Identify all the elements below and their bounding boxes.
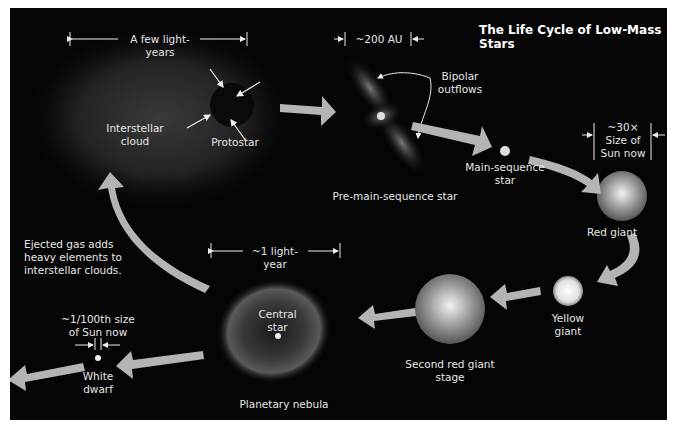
stage-label-red-giant: Red giant (582, 226, 642, 239)
ejected-gas-note: Ejected gas adds heavy elements to inter… (24, 238, 134, 277)
cloud-scale-label: A few light-years (120, 33, 200, 59)
diagram-title: The Life Cycle of Low-Mass Stars (479, 23, 667, 51)
nebula-scale-label: ~1 light-year (243, 245, 307, 271)
premain-scale-label: ~200 AU (348, 33, 410, 46)
main-sequence-star (500, 146, 510, 156)
central-star-label: Central star (255, 308, 300, 334)
pre-main-sequence-star (337, 49, 436, 182)
stage-label-pre-main-sequence: Pre-main-sequence star (325, 190, 465, 203)
diagram-panel: The Life Cycle of Low-Mass Stars A few l… (10, 8, 667, 420)
yellow-giant (553, 276, 583, 306)
whitedwarf-scale-label: ~1/100th size of Sun now (48, 313, 148, 339)
diagram-graphics (10, 8, 667, 420)
stage-label-planetary-nebula: Planetary nebula (234, 398, 334, 411)
stage-label-protostar: Protostar (200, 136, 270, 149)
stage-label-white-dwarf: White dwarf (68, 370, 128, 396)
whitedwarf-scale-bar (75, 338, 120, 350)
red-giant (597, 171, 647, 221)
stage-label-yellow-giant: Yellow giant (538, 312, 598, 338)
stage-label-main-sequence: Main-sequence star (465, 161, 545, 187)
redgiant-scale-label: ~30× Size of Sun now (595, 121, 651, 160)
stage-label-second-red-giant: Second red giant stage (390, 358, 510, 384)
second-red-giant (415, 274, 485, 344)
stage-label-interstellar-cloud: Interstellar cloud (95, 122, 175, 148)
white-dwarf (95, 355, 101, 361)
bipolar-pointer-top (378, 73, 430, 78)
bipolar-outflows-label: Bipolar outflows (430, 70, 490, 96)
